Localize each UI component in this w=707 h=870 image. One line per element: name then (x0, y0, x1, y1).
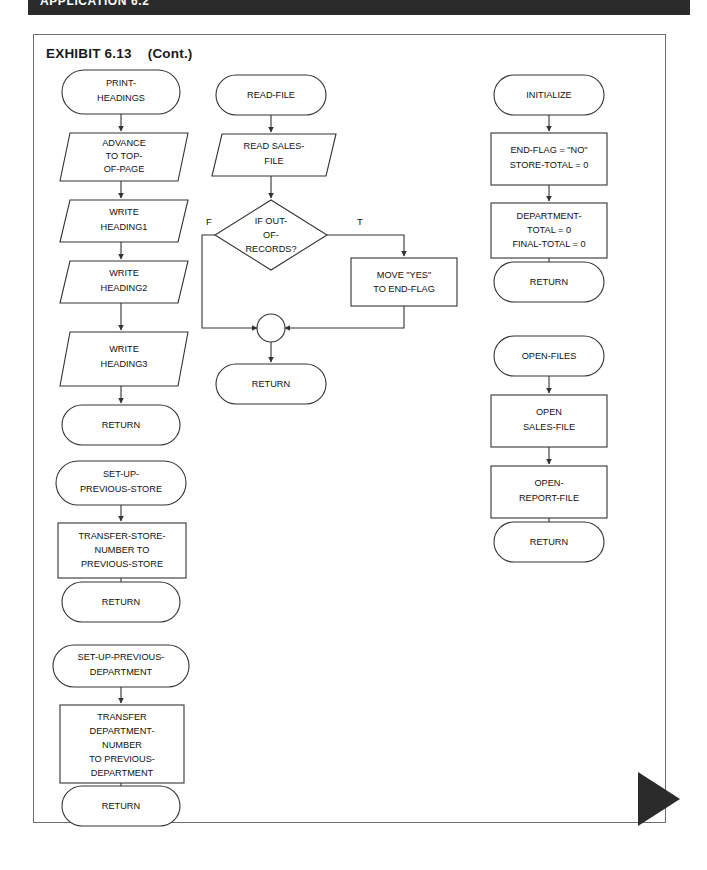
node-open-report-file[interactable]: OPEN- REPORT-FILE (491, 466, 607, 518)
read-file-module: READ-FILE READ SALES- FILE IF OUT- OF- R… (202, 75, 457, 404)
node-initialize-label: INITIALIZE (526, 90, 571, 100)
node-transfer-dept-line-1: DEPARTMENT- (90, 726, 155, 736)
node-set-up-previous-department[interactable]: SET-UP-PREVIOUS- DEPARTMENT (53, 645, 189, 687)
node-open-sales-file[interactable]: OPEN SALES-FILE (491, 395, 607, 447)
node-heading2-line-1: HEADING2 (101, 283, 148, 293)
node-advance-line-1: TO TOP- (106, 151, 143, 161)
node-move-yes-line-1: TO END-FLAG (373, 284, 435, 294)
node-return-4[interactable]: RETURN (216, 364, 326, 404)
node-write-heading1[interactable]: WRITE HEADING1 (60, 200, 188, 242)
node-transfer-store-line-2: PREVIOUS-STORE (81, 559, 163, 569)
node-decision-line-1: OF- (263, 230, 279, 240)
node-return-3-label: RETURN (102, 801, 140, 811)
node-read-file[interactable]: READ-FILE (216, 75, 326, 115)
node-return-6[interactable]: RETURN (494, 522, 604, 562)
node-advance-line-0: ADVANCE (102, 138, 146, 148)
node-return-6-label: RETURN (530, 537, 568, 547)
node-open-sales-line-1: SALES-FILE (523, 422, 575, 432)
branch-label-false: F (206, 216, 212, 227)
node-set-up-previous-store[interactable]: SET-UP- PREVIOUS-STORE (56, 461, 186, 505)
flowchart-canvas: PRINT- HEADINGS ADVANCE TO TOP- OF-PAGE … (0, 0, 707, 870)
node-if-out-of-records[interactable]: IF OUT- OF- RECORDS? (215, 200, 327, 270)
node-transfer-store-line-0: TRANSFER-STORE- (78, 531, 165, 541)
node-open-files-label: OPEN-FILES (522, 351, 577, 361)
node-open-report-line-1: REPORT-FILE (519, 493, 579, 503)
edge-decision-true-to-move (327, 235, 404, 256)
node-read-sales-line-1: FILE (264, 156, 283, 166)
node-return-3[interactable]: RETURN (62, 786, 180, 826)
node-open-files[interactable]: OPEN-FILES (494, 336, 604, 376)
print-headings-module: PRINT- HEADINGS ADVANCE TO TOP- OF-PAGE … (60, 70, 188, 445)
node-heading1-line-0: WRITE (109, 207, 139, 217)
node-transfer-store-line-1: NUMBER TO (95, 545, 150, 555)
node-transfer-dept-line-3: TO PREVIOUS- (89, 754, 155, 764)
initialize-module: INITIALIZE END-FLAG = "NO" STORE-TOTAL =… (491, 75, 607, 302)
node-setup-store-line-0: SET-UP- (103, 469, 139, 479)
node-heading3-line-0: WRITE (109, 344, 139, 354)
edge-move-to-junction (285, 306, 404, 328)
node-decision-line-2: RECORDS? (245, 244, 296, 254)
set-up-previous-store-module: SET-UP- PREVIOUS-STORE TRANSFER-STORE- N… (56, 461, 186, 622)
node-end-flag-store-total[interactable]: END-FLAG = "NO" STORE-TOTAL = 0 (491, 133, 607, 185)
node-move-yes-line-0: MOVE "YES" (377, 270, 432, 280)
node-read-sales-line-0: READ SALES- (244, 141, 305, 151)
node-initialize[interactable]: INITIALIZE (494, 75, 604, 115)
node-endflag-line-1: STORE-TOTAL = 0 (510, 160, 589, 170)
open-files-module: OPEN-FILES OPEN SALES-FILE OPEN- REPORT-… (491, 336, 607, 562)
node-junction-connector[interactable] (257, 314, 285, 342)
node-move-yes-to-end-flag[interactable]: MOVE "YES" TO END-FLAG (351, 258, 457, 306)
node-transfer-dept-line-4: DEPARTMENT (91, 768, 154, 778)
node-return-1[interactable]: RETURN (62, 405, 180, 445)
node-advance-to-top-of-page[interactable]: ADVANCE TO TOP- OF-PAGE (60, 133, 188, 181)
node-write-heading3[interactable]: WRITE HEADING3 (60, 332, 188, 386)
node-decision-line-0: IF OUT- (255, 216, 288, 226)
node-return-4-label: RETURN (252, 379, 290, 389)
node-return-2-label: RETURN (102, 597, 140, 607)
node-heading3-line-1: HEADING3 (101, 359, 148, 369)
node-department-final-total[interactable]: DEPARTMENT- TOTAL = 0 FINAL-TOTAL = 0 (491, 203, 607, 258)
node-return-2[interactable]: RETURN (62, 582, 180, 622)
node-write-heading2[interactable]: WRITE HEADING2 (60, 261, 188, 303)
node-read-file-label: READ-FILE (247, 90, 295, 100)
set-up-previous-department-module: SET-UP-PREVIOUS- DEPARTMENT TRANSFER DEP… (53, 645, 189, 826)
node-transfer-department-number[interactable]: TRANSFER DEPARTMENT- NUMBER TO PREVIOUS-… (60, 705, 184, 783)
node-setup-store-line-1: PREVIOUS-STORE (80, 484, 162, 494)
node-setup-dept-line-1: DEPARTMENT (90, 667, 153, 677)
branch-label-true: T (357, 216, 363, 227)
node-advance-line-2: OF-PAGE (104, 164, 145, 174)
node-heading2-line-0: WRITE (109, 268, 139, 278)
node-print-headings[interactable]: PRINT- HEADINGS (62, 70, 180, 114)
node-return-5[interactable]: RETURN (494, 262, 604, 302)
node-return-1-label: RETURN (102, 420, 140, 430)
node-print-headings-line-1: HEADINGS (97, 93, 145, 103)
node-heading1-line-1: HEADING1 (101, 222, 148, 232)
node-open-report-line-0: OPEN- (534, 478, 563, 488)
node-read-sales-file[interactable]: READ SALES- FILE (212, 134, 336, 176)
node-depttotal-line-2: FINAL-TOTAL = 0 (512, 239, 585, 249)
node-setup-dept-line-0: SET-UP-PREVIOUS- (78, 652, 165, 662)
node-print-headings-line-0: PRINT- (106, 78, 136, 88)
node-transfer-dept-line-2: NUMBER (102, 740, 142, 750)
node-open-sales-line-0: OPEN (536, 407, 562, 417)
node-return-5-label: RETURN (530, 277, 568, 287)
node-endflag-line-0: END-FLAG = "NO" (510, 145, 587, 155)
node-depttotal-line-1: TOTAL = 0 (527, 225, 571, 235)
node-transfer-dept-line-0: TRANSFER (97, 712, 147, 722)
node-transfer-store-number[interactable]: TRANSFER-STORE- NUMBER TO PREVIOUS-STORE (58, 523, 186, 578)
page-root: APPLICATION 6.2 EXHIBIT 6.13(Cont.) PRIN… (0, 0, 707, 870)
node-depttotal-line-0: DEPARTMENT- (517, 211, 582, 221)
